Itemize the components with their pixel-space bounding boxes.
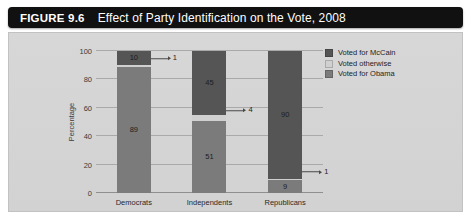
bar-group: 51445Independents — [172, 51, 248, 193]
y-tick-label: 60 — [84, 103, 92, 112]
legend-swatch — [325, 60, 333, 68]
figure-title-banner: FIGURE 9.6 Effect of Party Identificatio… — [8, 7, 463, 28]
figure-number: FIGURE 9.6 — [20, 12, 85, 24]
stacked-bar[interactable]: 89110 — [117, 51, 151, 193]
bar-segment[interactable] — [268, 179, 302, 180]
bars-group: 89110Democrats51445Independents9190Repub… — [96, 51, 323, 193]
bar-value-label: 10 — [130, 54, 138, 62]
bar-segment[interactable] — [192, 115, 226, 121]
bar-group: 89110Democrats — [96, 51, 172, 193]
bar-value-label: 51 — [205, 153, 213, 161]
callout-leader-line — [226, 110, 243, 111]
legend-label: Voted for Obama — [338, 70, 395, 78]
legend-item[interactable]: Voted otherwise — [325, 60, 396, 68]
callout-arrow-icon — [168, 56, 171, 60]
bar-value-label: 9 — [283, 183, 287, 191]
legend-label: Voted otherwise — [338, 60, 391, 68]
figure-title: Effect of Party Identification on the Vo… — [98, 11, 346, 25]
callout-leader-line — [302, 172, 319, 173]
y-tick-label: 100 — [79, 47, 92, 56]
bar-segment[interactable]: 10 — [117, 51, 151, 65]
bar-segment[interactable] — [117, 65, 151, 66]
y-tick-label: 40 — [84, 132, 92, 141]
legend-swatch — [325, 49, 333, 57]
chart-legend: Voted for McCainVoted otherwiseVoted for… — [325, 49, 396, 81]
bar-value-label: 90 — [281, 111, 289, 119]
bar-value-label: 45 — [205, 79, 213, 87]
bar-segment[interactable]: 90 — [268, 51, 302, 179]
legend-swatch — [325, 70, 333, 78]
bar-group: 9190Republicans — [247, 51, 323, 193]
bar-value-label: 89 — [130, 126, 138, 134]
stacked-bar[interactable]: 51445 — [192, 51, 226, 193]
y-axis-label: Percentage — [67, 103, 76, 141]
callout-arrow-icon — [319, 170, 322, 174]
y-tick-label: 0 — [88, 189, 92, 198]
category-label: Independents — [187, 198, 232, 207]
bar-segment[interactable]: 45 — [192, 51, 226, 115]
stacked-bar[interactable]: 9190 — [268, 51, 302, 193]
category-label: Republicans — [265, 198, 306, 207]
callout-arrow-icon — [243, 108, 246, 112]
legend-label: Voted for McCain — [338, 49, 396, 57]
y-tick-label: 80 — [84, 75, 92, 84]
plot-area: 020406080100 Percentage 89110Democrats51… — [96, 51, 323, 193]
category-label: Democrats — [116, 198, 152, 207]
y-tick-label: 20 — [84, 160, 92, 169]
bar-segment[interactable]: 9 — [268, 180, 302, 193]
legend-item[interactable]: Voted for Obama — [325, 70, 396, 78]
callout-leader-line — [151, 58, 168, 59]
bar-segment[interactable]: 51 — [192, 121, 226, 193]
bar-segment[interactable]: 89 — [117, 67, 151, 193]
figure-container: FIGURE 9.6 Effect of Party Identificatio… — [0, 0, 471, 220]
legend-item[interactable]: Voted for McCain — [325, 49, 396, 57]
